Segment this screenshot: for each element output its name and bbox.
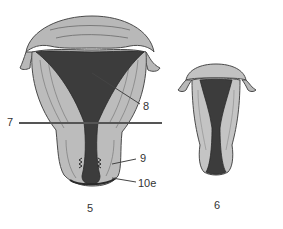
label-7: 7 — [7, 117, 13, 128]
leader-line-10e — [112, 178, 136, 182]
figure-6-uterus — [178, 64, 256, 175]
left-tube-small — [178, 80, 192, 92]
label-10e: 10e — [138, 178, 156, 189]
label-9: 9 — [140, 153, 146, 164]
right-tube-small — [242, 80, 256, 92]
label-8: 8 — [143, 101, 149, 112]
figure-5-uterus — [20, 16, 160, 186]
diagram-canvas — [0, 0, 283, 229]
caption-figure-6: 6 — [214, 200, 220, 211]
fundus-cap — [26, 16, 154, 52]
caption-figure-5: 5 — [87, 203, 93, 214]
